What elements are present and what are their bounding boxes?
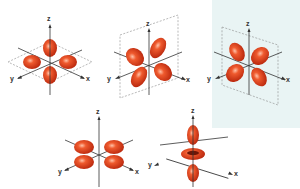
x-axis-label: x [86,75,90,82]
dyz-diagram [200,0,300,95]
z-axis-label: z [96,108,100,115]
y-axis-label: y [107,75,111,82]
z-axis-label: z [47,15,51,22]
orbital-dxz: z y x [100,0,200,95]
y-axis-label: y [207,75,211,82]
orbital-dx2-y2: z y x [40,95,160,189]
z-axis-label: z [191,107,195,114]
z-axis-label: z [146,20,150,27]
x-axis-label: x [186,76,190,83]
y-axis-label: y [10,75,14,82]
dxz-diagram [100,0,200,95]
dz2-diagram [160,95,270,189]
x-axis-label: x [234,170,238,177]
orbital-dxy: z y x [0,0,100,95]
z-axis-label: z [246,20,250,27]
x-axis-label: x [135,168,139,175]
y-axis-label: y [58,168,62,175]
orbital-dyz: z y x [200,0,300,95]
orbital-dz2: z y x [160,95,270,189]
x-axis-label: x [286,76,290,83]
y-axis-label: y [148,161,152,168]
